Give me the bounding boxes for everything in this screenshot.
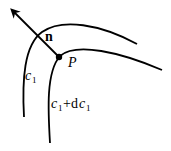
svg-text:c: c bbox=[51, 96, 58, 111]
svg-text:c: c bbox=[79, 96, 86, 111]
point-P bbox=[56, 54, 62, 60]
svg-text:c: c bbox=[25, 68, 32, 83]
label-c1: c 1 bbox=[25, 68, 37, 85]
svg-text:1: 1 bbox=[32, 75, 37, 85]
svg-text:1: 1 bbox=[58, 103, 63, 113]
diagram-canvas: n P c 1 c 1 +d c 1 bbox=[0, 0, 171, 151]
label-P: P bbox=[67, 55, 77, 70]
svg-text:+d: +d bbox=[63, 96, 78, 111]
svg-text:1: 1 bbox=[86, 103, 91, 113]
label-c1-plus-dc1: c 1 +d c 1 bbox=[51, 96, 91, 113]
label-n: n bbox=[45, 29, 53, 44]
